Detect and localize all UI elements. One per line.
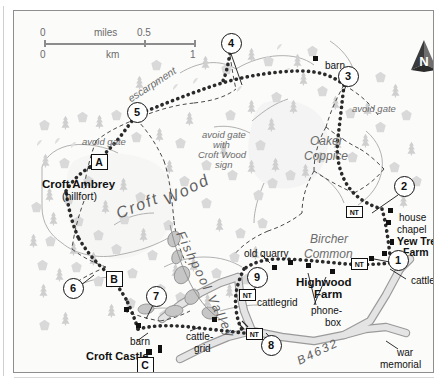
map-label: (hillfort) [62, 191, 97, 202]
page-edge-rule-left [3, 6, 4, 376]
map-label: Oaker [310, 135, 343, 148]
map-label: house [399, 213, 426, 224]
waypoint-marker-4[interactable]: 4 [221, 33, 242, 54]
nt-boundary-marker: NT [239, 289, 256, 301]
map-label: phone- [311, 306, 342, 317]
map-label: cattlegrid [411, 276, 434, 287]
waypoint-marker-9[interactable]: 9 [247, 267, 268, 288]
letter-marker-a[interactable]: A [91, 154, 108, 170]
waypoint-marker-7[interactable]: 7 [146, 286, 167, 307]
scale-km-start: 0 [40, 50, 46, 61]
map-label: box [325, 318, 341, 329]
map-label: cattlegrid [257, 298, 298, 309]
waypoint-marker-6[interactable]: 6 [63, 278, 84, 299]
scale-miles-start: 0 [40, 28, 46, 39]
map-label: old quarry [244, 249, 288, 260]
map-label: sign [215, 160, 232, 170]
map-label: memorial [380, 360, 421, 371]
map-label: chapel [397, 225, 426, 236]
map-label: Croft Ambrey [42, 178, 115, 190]
waypoint-marker-8[interactable]: 8 [261, 335, 282, 356]
map-label: cattle- [186, 332, 213, 343]
map-label: Farm [314, 288, 342, 300]
nt-boundary-marker: NT [351, 258, 368, 270]
map-label: avoid gate [82, 137, 126, 147]
waypoint-marker-1[interactable]: 1 [388, 250, 409, 271]
waypoint-marker-5[interactable]: 5 [127, 102, 148, 123]
letter-marker-b[interactable]: B [106, 271, 123, 287]
scale-km-end: 1 [190, 50, 196, 61]
scale-bar-line [44, 43, 196, 45]
map-label: avoid gate [352, 104, 396, 114]
map-label: war [397, 348, 413, 359]
map-figure: 0 miles 0.5 0 km 1 N escarpmentavoid gat… [0, 0, 445, 389]
map-frame: 0 miles 0.5 0 km 1 N escarpmentavoid gat… [13, 10, 434, 373]
map-label: barn [130, 337, 150, 348]
waypoint-marker-2[interactable]: 2 [394, 176, 415, 197]
scale-miles-label: miles [94, 28, 117, 39]
scale-km-label: km [106, 50, 119, 61]
scale-miles-end: 0.5 [137, 28, 151, 39]
north-arrow-icon: N [409, 39, 434, 73]
north-arrow-label: N [409, 54, 434, 69]
letter-marker-c[interactable]: C [137, 357, 154, 373]
map-label: Highwood [296, 276, 352, 288]
map-label: grid [194, 344, 211, 355]
page-edge-rule-bottom [14, 377, 434, 378]
waypoint-marker-3[interactable]: 3 [338, 66, 359, 87]
nt-boundary-marker: NT [346, 206, 363, 218]
map-label: Coppice [304, 150, 348, 163]
map-label: Bircher [310, 233, 348, 246]
nt-boundary-marker: NT [246, 328, 263, 340]
map-label: Common [304, 248, 353, 261]
